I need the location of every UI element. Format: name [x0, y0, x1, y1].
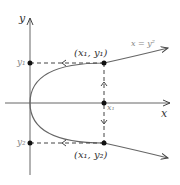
y2-tick-label: y₂: [17, 138, 26, 147]
y-axis-label: y: [19, 13, 25, 24]
point-lower-label: (x₁, y₂): [74, 150, 107, 160]
point-upper-dot: [102, 61, 107, 66]
point-lower-dot: [102, 141, 107, 146]
point-upper-label: (x₁, y₁): [74, 48, 107, 58]
x-axis-label: x: [161, 108, 167, 119]
y2-dot: [28, 141, 33, 146]
curve-equation-label: x = y²: [131, 40, 155, 48]
y1-tick-label: y₁: [17, 58, 26, 67]
y1-dot: [28, 61, 33, 66]
x1-dot: [102, 101, 107, 106]
x1-tick-label: x₁: [107, 104, 115, 112]
